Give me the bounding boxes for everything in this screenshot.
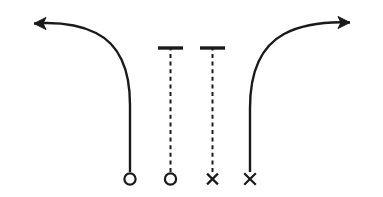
left-route-path xyxy=(34,23,130,172)
origin-markers-group xyxy=(124,173,255,185)
cross-marker-right xyxy=(244,173,256,185)
circle-marker-left xyxy=(124,173,135,184)
cross-marker-third xyxy=(207,174,218,185)
left-curved-arrow-route xyxy=(34,18,130,173)
right-curved-arrow-route xyxy=(250,17,350,173)
play-diagram-svg xyxy=(0,0,383,197)
play-diagram-canvas xyxy=(0,0,383,197)
right-route-path xyxy=(250,22,350,172)
circle-marker-second xyxy=(165,173,176,184)
left-dashed-blocking-line xyxy=(158,48,183,172)
right-dashed-blocking-line xyxy=(200,48,225,172)
